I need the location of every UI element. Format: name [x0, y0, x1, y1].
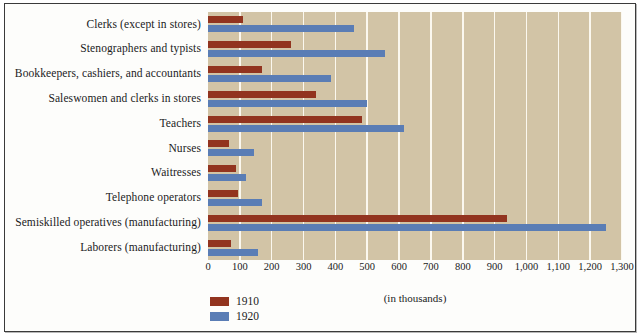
bar-group — [208, 62, 622, 87]
bar-1910 — [208, 66, 262, 73]
x-tick-label: 1,300 — [610, 261, 634, 272]
category-label: Teachers — [5, 111, 207, 136]
x-tick-label: 100 — [232, 261, 248, 272]
bar-group — [208, 210, 622, 235]
bar-group — [208, 111, 622, 136]
category-label: Bookkeepers, cashiers, and accountants — [5, 62, 207, 87]
bar-group — [208, 235, 622, 260]
category-label: Stenographers and typists — [5, 37, 207, 62]
bar-group — [208, 86, 622, 111]
x-tick-label: 1,200 — [578, 261, 602, 272]
x-tick-label: 600 — [391, 261, 407, 272]
x-tick-label: 1,100 — [546, 261, 570, 272]
category-axis-labels: Clerks (except in stores)Stenographers a… — [5, 12, 207, 260]
bar-1920 — [208, 125, 404, 132]
bar-group — [208, 161, 622, 186]
bar-1920 — [208, 199, 262, 206]
x-tick-label: 500 — [359, 261, 375, 272]
x-tick-label: 800 — [455, 261, 471, 272]
bar-1920 — [208, 50, 385, 57]
bar-1920 — [208, 174, 246, 181]
axis-caption: (in thousands) — [208, 292, 622, 304]
category-label: Laborers (manufacturing) — [5, 235, 207, 260]
x-tick-label: 900 — [487, 261, 503, 272]
chart-figure: Clerks (except in stores)Stenographers a… — [4, 3, 636, 332]
x-tick-label: 200 — [264, 261, 280, 272]
legend-item[interactable]: 1920 — [210, 311, 259, 323]
x-tick-label: 400 — [328, 261, 344, 272]
chart-legend: 19101920 — [210, 296, 259, 322]
bar-rows — [208, 12, 622, 260]
plot-area — [208, 12, 622, 260]
legend-item[interactable]: 1910 — [210, 296, 259, 308]
bar-1920 — [208, 25, 354, 32]
bar-1910 — [208, 190, 238, 197]
bar-1920 — [208, 224, 606, 231]
bar-1910 — [208, 215, 507, 222]
legend-label: 1910 — [236, 296, 259, 308]
x-tick-label: 1,000 — [515, 261, 539, 272]
x-tick-label: 300 — [296, 261, 312, 272]
x-tick-label: 0 — [205, 261, 210, 272]
bar-group — [208, 12, 622, 37]
bar-1910 — [208, 240, 231, 247]
bar-group — [208, 37, 622, 62]
bar-1920 — [208, 100, 367, 107]
bar-1910 — [208, 16, 243, 23]
bar-group — [208, 186, 622, 211]
category-label: Saleswomen and clerks in stores — [5, 86, 207, 111]
category-label: Semiskilled operatives (manufacturing) — [5, 210, 207, 235]
category-label: Waitresses — [5, 161, 207, 186]
value-axis: 01002003004005006007008009001,0001,1001,… — [208, 260, 622, 278]
bar-1920 — [208, 75, 331, 82]
bar-1910 — [208, 165, 236, 172]
bar-1910 — [208, 41, 291, 48]
x-tick-label: 700 — [423, 261, 439, 272]
legend-swatch-icon — [210, 312, 229, 321]
bar-1910 — [208, 116, 362, 123]
bar-group — [208, 136, 622, 161]
bar-1910 — [208, 91, 316, 98]
category-label: Telephone operators — [5, 186, 207, 211]
category-label: Nurses — [5, 136, 207, 161]
bar-1920 — [208, 249, 258, 256]
bar-1920 — [208, 149, 254, 156]
legend-label: 1920 — [236, 311, 259, 323]
category-label: Clerks (except in stores) — [5, 12, 207, 37]
legend-swatch-icon — [210, 297, 229, 306]
bar-1910 — [208, 140, 229, 147]
